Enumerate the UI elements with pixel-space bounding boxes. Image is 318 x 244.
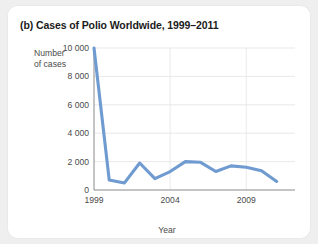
figure-card: (b) Cases of Polio Worldwide, 1999–2011 … — [8, 6, 310, 238]
gridlines — [94, 48, 295, 190]
x-tick-label: 2004 — [161, 195, 180, 205]
y-tick-label: 4 000 — [67, 128, 89, 138]
x-axis-title: Year — [8, 225, 318, 235]
axis-lines — [94, 48, 295, 190]
tick-labels: 02 0004 0006 0008 00010 000199920042009 — [63, 43, 256, 205]
x-tick-label: 2009 — [237, 195, 256, 205]
x-tick-label: 1999 — [84, 195, 103, 205]
y-tick-label: 2 000 — [67, 157, 89, 167]
line-chart-plot: 02 0004 0006 0008 00010 000199920042009 — [8, 6, 310, 238]
y-tick-label: 6 000 — [67, 100, 89, 110]
y-tick-label: 8 000 — [67, 71, 89, 81]
y-tick-label: 0 — [84, 185, 89, 195]
data-series-line — [94, 48, 277, 183]
y-tick-label: 10 000 — [63, 43, 90, 53]
